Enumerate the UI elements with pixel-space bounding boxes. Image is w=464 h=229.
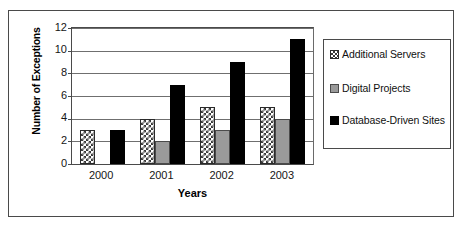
y-axis-tickmark xyxy=(68,51,72,52)
bar xyxy=(290,39,305,164)
bar xyxy=(230,62,245,164)
y-axis-tick-label: 4 xyxy=(39,112,67,123)
y-axis-tickmark xyxy=(68,141,72,142)
bar xyxy=(275,119,290,164)
bar-group xyxy=(260,28,305,164)
y-axis-tick-label: 8 xyxy=(39,67,67,78)
bar xyxy=(110,130,125,164)
chart-figure: Number of Exceptions 024681012 200020012… xyxy=(8,10,454,217)
y-axis-tickmark xyxy=(68,96,72,97)
legend-item-label: Digital Projects xyxy=(342,82,410,94)
bar xyxy=(215,130,230,164)
y-axis-tick-label: 12 xyxy=(39,22,67,33)
y-axis-tick-label: 0 xyxy=(39,158,67,169)
y-axis-tickmark xyxy=(68,28,72,29)
bar xyxy=(155,141,170,164)
legend-item: Digital Projects xyxy=(330,82,448,94)
y-axis-tick-labels: 024681012 xyxy=(39,17,67,163)
y-axis-tick-label: 6 xyxy=(39,90,67,101)
x-axis-tick-label: 2000 xyxy=(71,169,131,181)
bar xyxy=(260,107,275,164)
bar-group xyxy=(80,28,125,164)
chart-legend: Additional ServersDigital ProjectsDataba… xyxy=(323,39,451,149)
legend-item-label: Database-Driven Sites xyxy=(342,114,445,126)
legend-item: Database-Driven Sites xyxy=(330,114,448,126)
bar xyxy=(80,130,95,164)
y-axis-tick-label: 2 xyxy=(39,135,67,146)
legend-item: Additional Servers xyxy=(330,48,448,60)
legend-item-label: Additional Servers xyxy=(342,48,425,60)
legend-swatch-icon xyxy=(330,84,339,93)
bar xyxy=(170,85,185,164)
y-axis-tickmark xyxy=(68,164,72,165)
x-axis-tick-label: 2002 xyxy=(192,169,252,181)
legend-swatch-icon xyxy=(330,50,339,59)
x-axis-tick-label: 2001 xyxy=(131,169,191,181)
plot-area xyxy=(71,27,314,165)
y-axis-tickmark xyxy=(68,119,72,120)
y-axis-tick-label: 10 xyxy=(39,44,67,55)
bar xyxy=(200,107,215,164)
bar xyxy=(140,119,155,164)
x-axis-tick-labels: 2000200120022003 xyxy=(71,169,314,185)
x-axis-title: Years xyxy=(71,187,314,199)
bar-group xyxy=(200,28,245,164)
legend-swatch-icon xyxy=(330,116,339,125)
x-axis-tick-label: 2003 xyxy=(252,169,312,181)
y-axis-tickmark xyxy=(68,73,72,74)
bar-group xyxy=(140,28,185,164)
